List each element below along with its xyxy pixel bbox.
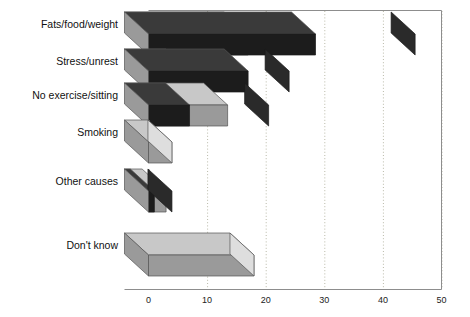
category-label-4: Other causes: [56, 175, 118, 187]
chart-container: Fats/food/weightStress/unrestNo exercise…: [0, 0, 470, 317]
category-label-3: Smoking: [77, 126, 118, 138]
x-tick-label-20: 20: [261, 295, 271, 305]
x-tick-label-30: 30: [319, 295, 329, 305]
x-tick-label-40: 40: [378, 295, 388, 305]
category-label-2: No exercise/sitting: [32, 89, 118, 101]
bar-chart: Fats/food/weightStress/unrestNo exercise…: [0, 0, 470, 317]
category-label-1: Stress/unrest: [56, 55, 118, 67]
category-label-0: Fats/food/weight: [41, 18, 118, 30]
x-tick-label-0: 0: [146, 295, 151, 305]
bar-0-segment-1-top: [125, 12, 316, 34]
x-tick-label-50: 50: [436, 295, 446, 305]
x-tick-label-10: 10: [202, 295, 212, 305]
category-label-5: Don't know: [66, 239, 118, 251]
bar-2-segment-1-front: [149, 105, 190, 126]
